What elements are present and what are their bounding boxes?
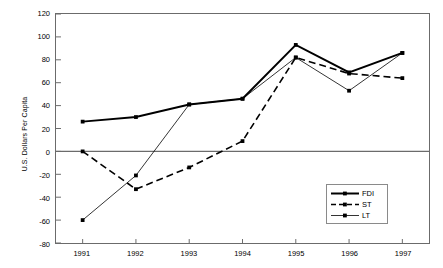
data-point-lt [134,174,138,178]
y-tick-label: -80 [39,240,50,249]
data-point-lt [347,89,351,93]
legend-line-sample-icon [330,188,360,199]
legend-item-lt[interactable]: LT [330,210,384,221]
data-point-st [400,76,404,80]
legend-label: FDI [360,188,374,199]
x-tick-label: 1991 [73,249,90,258]
data-point-st [134,187,138,191]
data-point-st [187,166,191,170]
x-tick-label: 1996 [341,249,358,258]
data-point-fdi [81,120,85,124]
x-tick-label: 1997 [395,249,412,258]
y-axis-tick-labels: 120100806040200-20-40-60-80 [22,13,50,244]
x-tick-label: 1993 [181,249,198,258]
series-line-fdi [83,45,403,122]
legend-item-st[interactable]: ST [330,199,384,210]
data-point-st [81,150,85,154]
y-tick-label: 100 [37,32,50,41]
x-axis-tick-labels: 1991199219931994199519961997 [55,249,430,263]
y-tick-label: -20 [39,170,50,179]
series-line-st [83,58,403,190]
data-point-lt [294,56,298,60]
data-point-fdi [294,43,298,47]
y-tick-label: 80 [42,55,50,64]
line-chart: U.S. Dollars Per Capita 120100806040200-… [0,0,443,268]
legend-line-sample-icon [330,210,360,221]
y-tick-label: 120 [37,9,50,18]
data-point-lt [241,97,245,101]
y-tick-label: 60 [42,78,50,87]
data-point-lt [400,51,404,55]
x-tick-label: 1994 [234,249,251,258]
legend-label: LT [360,210,370,221]
y-tick-label: -40 [39,193,50,202]
data-point-st [241,139,245,143]
legend-label: ST [360,199,372,210]
x-tick-label: 1995 [288,249,305,258]
legend-line-sample-icon [330,199,360,210]
y-tick-label: -60 [39,216,50,225]
legend-item-fdi[interactable]: FDI [330,188,384,199]
data-point-fdi [134,115,138,119]
y-tick-label: 40 [42,101,50,110]
y-tick-label: 20 [42,124,50,133]
data-point-lt [187,103,191,107]
x-tick-label: 1992 [127,249,144,258]
data-point-st [347,72,351,76]
y-tick-label: 0 [46,147,50,156]
chart-legend: FDISTLT [326,184,388,224]
data-point-lt [81,218,85,222]
